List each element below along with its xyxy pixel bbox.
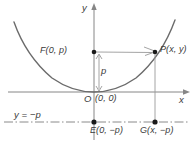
label-foot-e: E(0, −p) bbox=[90, 126, 123, 135]
label-directrix: y = −p bbox=[14, 110, 41, 120]
parabola-diagram: F(0, p) P(x, y) O (0, 0) p y x y = −p E(… bbox=[0, 0, 193, 150]
label-origin-coords: (0, 0) bbox=[95, 94, 117, 103]
label-focus: F(0, p) bbox=[40, 46, 67, 55]
point-g bbox=[152, 119, 157, 124]
label-x-axis: x bbox=[179, 95, 184, 105]
label-origin: O bbox=[84, 94, 92, 104]
label-y-axis: y bbox=[82, 3, 87, 13]
point-e bbox=[91, 119, 96, 124]
segment-focus-to-p bbox=[96, 47, 156, 56]
point-p bbox=[153, 50, 158, 55]
label-point-p: P(x, y) bbox=[160, 45, 187, 54]
point-focus bbox=[92, 50, 97, 55]
label-distance-p: p bbox=[101, 66, 106, 76]
label-foot-g: G(x, −p) bbox=[140, 126, 174, 135]
